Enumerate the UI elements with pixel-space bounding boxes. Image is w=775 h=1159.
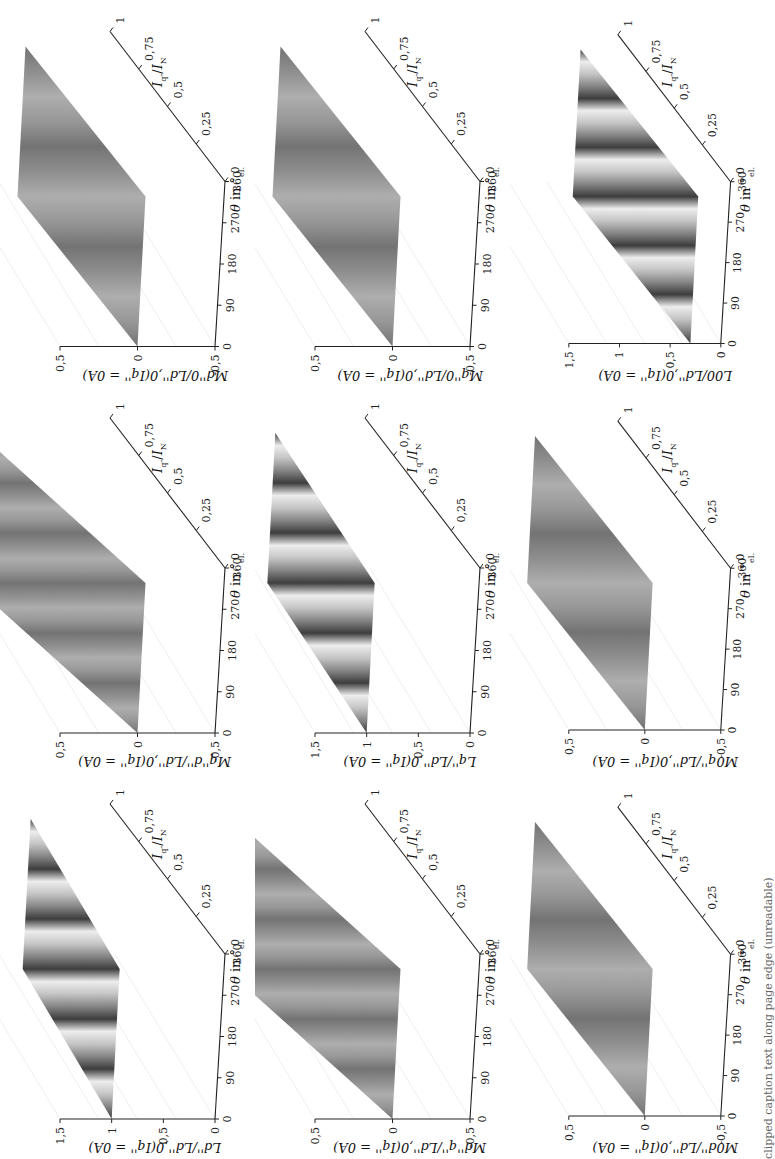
plot-mqd: -0,500,509018027036000,250,50,751Mq''d''… <box>0 387 255 773</box>
surface-plot-svg: 00,511,509018027036000,250,50,751 <box>255 387 510 773</box>
iq-axis-label: Iq″/IN <box>405 443 423 473</box>
theta-tick-label: 180 <box>481 254 494 275</box>
theta-axis-label: θ in °el. <box>738 167 756 212</box>
plot-lq: 00,511,509018027036000,250,50,751Lq''/Ld… <box>255 387 510 773</box>
iq-tick-label: 1 <box>622 406 635 413</box>
theta-tick-label: 270 <box>734 598 747 619</box>
surface <box>18 47 146 347</box>
plot-l00: 00,511,509018027036000,250,50,751L00/Ld'… <box>510 0 760 387</box>
z-tick-label: 0 <box>715 351 728 358</box>
theta-tick-label: 0 <box>476 343 489 350</box>
theta-tick-label: 90 <box>479 298 492 312</box>
surface <box>267 433 374 733</box>
theta-tick-label: 180 <box>481 640 494 661</box>
iq-axis-label: Iq″/IN <box>660 443 678 473</box>
surface <box>0 433 146 733</box>
theta-tick-label: 180 <box>226 254 239 275</box>
surface-plot-svg: -0,500,509018027036000,250,50,751 <box>255 0 510 387</box>
z-tick-label: 0 <box>464 741 477 748</box>
theta-tick-label: 90 <box>479 1071 492 1085</box>
iq-tick-label: 0,25 <box>455 884 468 909</box>
z-tick-label: 1 <box>361 741 374 748</box>
surface-plot-svg: -0,500,509018027036000,250,50,751 <box>510 773 760 1159</box>
plot-m0q: -0,500,509018027036000,250,50,751M0q''/L… <box>510 387 760 773</box>
theta-tick-label: 90 <box>479 685 492 699</box>
z-tick-label: 0 <box>209 1127 222 1134</box>
theta-axis-label: θ in °el. <box>483 553 501 598</box>
theta-axis-label: θ in °el. <box>228 167 246 212</box>
theta-axis-label: θ in °el. <box>483 939 501 984</box>
theta-tick-label: 270 <box>484 599 497 620</box>
iq-tick-label: 1 <box>114 789 127 796</box>
plot-mq0: -0,500,509018027036000,250,50,751Mq''0/L… <box>255 0 510 387</box>
iq-tick-label: 0,5 <box>678 470 691 487</box>
plot-mdq: -0,500,509018027036000,250,50,751Md''q''… <box>255 773 510 1159</box>
surface <box>273 47 401 347</box>
theta-axis-label: θ in °el. <box>228 553 246 598</box>
iq-tick-label: 0,5 <box>172 468 185 486</box>
z-axis-label: M0d''/Ld'',0(Iq'' = 0A) <box>570 1135 760 1155</box>
theta-tick-label: 90 <box>729 683 742 697</box>
theta-tick-label: 0 <box>221 1116 234 1123</box>
z-tick-label: 0 <box>387 355 400 362</box>
iq-tick-label: 0,5 <box>427 468 440 486</box>
theta-tick-label: 0 <box>221 343 234 350</box>
theta-tick-label: 270 <box>229 985 242 1006</box>
z-tick-label: 0 <box>639 1124 652 1131</box>
iq-tick-label: 0,25 <box>706 886 719 910</box>
z-axis-label: Md''0/Ld'',0(Iq'' = 0A) <box>60 363 250 383</box>
iq-tick-label: 1 <box>114 17 127 24</box>
iq-tick-label: 0,5 <box>172 854 185 872</box>
iq-tick-label: 0,25 <box>455 112 468 137</box>
theta-tick-label: 180 <box>481 1026 494 1047</box>
theta-tick-label: 0 <box>221 730 234 737</box>
theta-tick-label: 180 <box>226 640 239 661</box>
iq-axis-label: Iq″/IN <box>150 443 168 473</box>
figure-caption: clipped caption text along page edge (un… <box>762 0 775 1159</box>
iq-axis-label: Iq″/IN <box>405 57 423 87</box>
theta-tick-label: 270 <box>734 212 747 233</box>
theta-tick-label: 0 <box>726 340 739 347</box>
surface <box>527 436 652 730</box>
iq-tick-label: 1 <box>369 789 382 796</box>
iq-tick-label: 0,25 <box>706 113 719 137</box>
iq-tick-label: 0,25 <box>706 500 719 524</box>
z-tick-label: 0 <box>132 355 145 362</box>
z-axis-label: M0q''/Ld'',0(Iq'' = 0A) <box>570 749 760 769</box>
theta-tick-label: 90 <box>729 1069 742 1083</box>
z-tick-label: 0 <box>639 738 652 745</box>
z-tick-label: 0 <box>387 1127 400 1134</box>
plot-ld: 00,511,509018027036000,250,50,751Ld''/Ld… <box>0 773 255 1159</box>
theta-tick-label: 0 <box>726 1112 739 1119</box>
theta-tick-label: 180 <box>731 639 744 660</box>
theta-tick-label: 0 <box>476 730 489 737</box>
z-tick-label: 1 <box>613 351 626 358</box>
iq-tick-label: 0,25 <box>200 884 213 909</box>
theta-axis-label: θ in °el. <box>738 553 756 598</box>
theta-tick-label: 270 <box>484 985 497 1006</box>
plot-md0: -0,500,509018027036000,250,50,751Md''0/L… <box>0 0 255 387</box>
surface-plot-svg: 00,511,509018027036000,250,50,751 <box>510 0 760 387</box>
z-axis-label: L00/Ld'',0(Iq'' = 0A) <box>570 363 760 383</box>
z-axis-label: Mq''d''/Ld'',0(Iq'' = 0A) <box>60 749 250 769</box>
theta-axis-label: θ in °el. <box>228 939 246 984</box>
iq-axis-label: Iq″/IN <box>405 829 423 859</box>
theta-tick-label: 270 <box>734 984 747 1005</box>
iq-tick-label: 1 <box>369 403 382 410</box>
z-tick-label: 0 <box>132 741 145 748</box>
iq-axis-label: Iq″/IN <box>150 57 168 87</box>
theta-axis-label: θ in °el. <box>738 939 756 984</box>
z-axis-label: Ld''/Ld'',0(Iq'' = 0A) <box>60 1135 250 1155</box>
iq-tick-label: 0,5 <box>172 81 185 99</box>
iq-tick-label: 0,5 <box>427 854 440 872</box>
iq-tick-label: 0,25 <box>200 498 213 523</box>
surface-plot-grid: 00,511,509018027036000,250,50,751Ld''/Ld… <box>0 0 760 1159</box>
theta-tick-label: 90 <box>224 1071 237 1085</box>
surface-plot-svg: -0,500,509018027036000,250,50,751 <box>510 387 760 773</box>
iq-tick-label: 0,5 <box>678 856 691 873</box>
theta-tick-label: 0 <box>476 1116 489 1123</box>
plot-m0d: -0,500,509018027036000,250,50,751M0d''/L… <box>510 773 760 1159</box>
z-axis-label: Lq''/Ld'',0(Iq'' = 0A) <box>315 749 505 769</box>
theta-axis-label: θ in °el. <box>483 167 501 212</box>
iq-tick-label: 1 <box>114 403 127 410</box>
